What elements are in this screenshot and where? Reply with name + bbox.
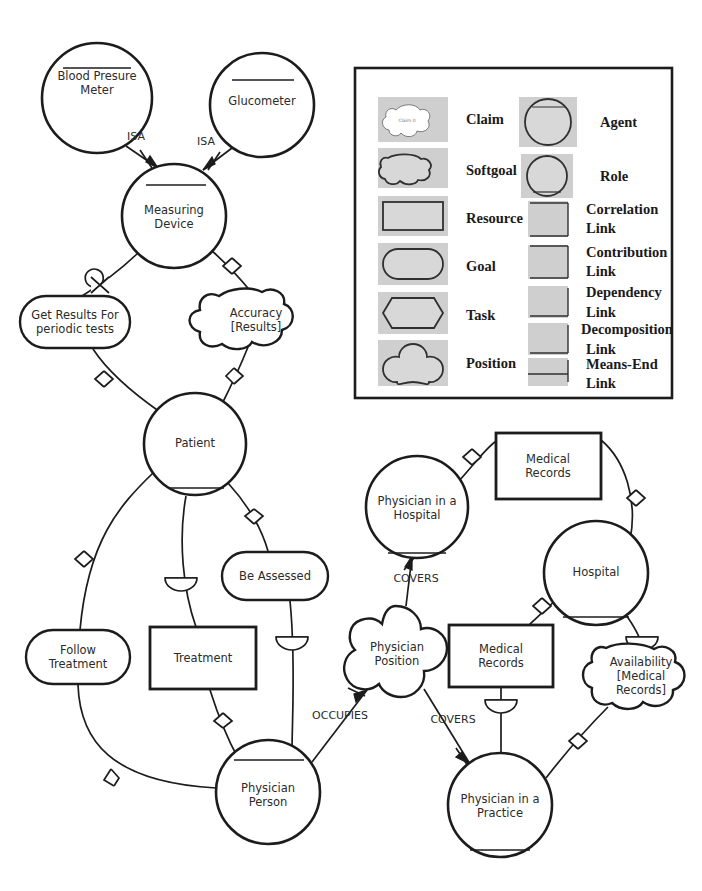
edge-occupies [312, 690, 367, 762]
legend-label-contribution: Contribution [586, 244, 667, 260]
dep-marker-treatment-physicianperson [214, 713, 232, 728]
legend-label-means-end: Means-End [586, 356, 658, 372]
legend-label-role: Role [600, 168, 629, 184]
dep-marker-patient-followtreatment [75, 551, 93, 567]
node-availability-medical-records[interactable]: Availability [Medical Records] [583, 644, 685, 709]
node-treatment[interactable]: Treatment [150, 627, 256, 689]
dep-marker-md-accuracy [223, 258, 241, 274]
legend-box: Claim 0 Claim Softgoal Resource Goal [355, 68, 673, 398]
legend-label-contribution-2: Link [586, 263, 617, 279]
decomp-marker-beassessed-physicianperson [276, 637, 308, 650]
legend-label-resource: Resource [466, 210, 523, 226]
node-physician-position[interactable]: Physician Position [344, 606, 447, 697]
legend-swatch-bg [528, 201, 568, 237]
edge-beassessed-physicianperson [290, 601, 293, 752]
legend-label-task: Task [466, 307, 496, 323]
decomp-marker-medrecordsb-physpractice [485, 700, 517, 713]
role-icon [527, 156, 567, 196]
dep-marker-md-getresults [82, 265, 109, 293]
node-get-results[interactable]: Get Results For periodic tests [20, 296, 130, 348]
edge-label-covers-practice: COVERS [430, 713, 475, 726]
edge-label-isa-right: ISA [197, 135, 215, 148]
decomp-marker-patient-treatment [165, 578, 197, 591]
legend-swatch-bg [528, 245, 568, 279]
legend-label-correlation-2: Link [586, 220, 617, 236]
dep-marker-medrecordsb-hospital [533, 598, 551, 614]
edge-followtreatment-physicianperson [78, 685, 216, 788]
diagram-canvas: Blood Presure Meter Glucometer Measuring… [0, 0, 702, 891]
legend-label-agent: Agent [600, 114, 637, 130]
resource-icon [383, 202, 443, 230]
legend-label-means-end-2: Link [586, 375, 617, 391]
node-be-assessed[interactable]: Be Assessed [222, 552, 328, 600]
node-medical-records-top[interactable]: Medical Records [496, 433, 601, 499]
node-hospital[interactable]: Hospital [544, 521, 648, 625]
legend-label-correlation: Correlation [586, 201, 658, 217]
claim-inner-text: Claim 0 [398, 118, 415, 123]
legend-label-decomposition: Decomposition [581, 321, 673, 337]
dep-marker-getresults-patient [95, 371, 113, 387]
node-medical-records-bottom[interactable]: Medical Records [449, 625, 553, 687]
node-patient[interactable]: Patient [144, 393, 246, 495]
edge-label-occupies: OCCUPIES [312, 709, 368, 722]
legend-label-claim: Claim [466, 111, 504, 127]
node-physician-person[interactable]: Physician Person [216, 740, 320, 844]
goal-icon [383, 249, 443, 279]
legend-label-position: Position [466, 355, 516, 371]
legend-label-goal: Goal [466, 258, 496, 274]
legend-swatch-bg [528, 286, 568, 318]
node-measuring-device[interactable]: Measuring Device [122, 164, 226, 268]
legend-swatch-bg [528, 358, 568, 386]
legend-label-dependency-2: Link [586, 304, 617, 320]
legend-label-softgoal: Softgoal [466, 162, 517, 178]
edge-patient-followtreatment [80, 473, 153, 630]
dep-marker-physhospital-medrecords [463, 449, 481, 465]
dep-marker-patient-beassessed [245, 509, 263, 524]
node-glucometer[interactable]: Glucometer [210, 53, 314, 157]
node-accuracy-results[interactable]: Accuracy [Results] [190, 289, 293, 350]
task-icon [383, 298, 443, 328]
agent-icon [525, 99, 571, 145]
softgoal-icon [379, 154, 431, 184]
dep-marker-accuracy-patient [226, 368, 243, 384]
dep-marker-followtreatment-physicianperson [104, 769, 119, 786]
node-physician-in-a-hospital[interactable]: Physician in a Hospital [366, 456, 468, 558]
istar-diagram-svg: Blood Presure Meter Glucometer Measuring… [0, 0, 702, 891]
legend-label-dependency: Dependency [586, 284, 662, 300]
edge-label-isa-left: ISA [127, 130, 145, 143]
edge-label-covers-hospital: COVERS [393, 572, 438, 585]
edge-patient-treatment [182, 496, 196, 627]
legend-label-decomposition-2: Link [586, 341, 617, 357]
legend-swatch-bg [528, 323, 568, 355]
node-physician-in-a-practice[interactable]: Physician in a Practice [448, 753, 552, 857]
node-follow-treatment[interactable]: Follow Treatment [26, 630, 130, 684]
